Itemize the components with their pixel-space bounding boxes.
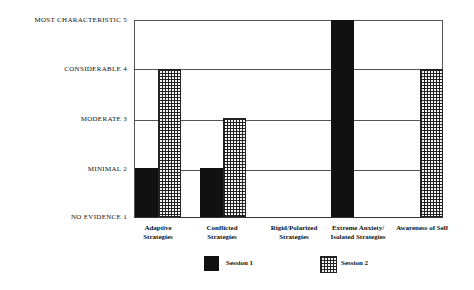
x-tick-label-line: Isolated Strategies: [318, 233, 398, 242]
bar-session2-1: [223, 118, 246, 217]
legend-label-session2: Session 2: [341, 259, 368, 267]
plot-area: [134, 20, 443, 218]
y-tick-label-4: CONSIDERABLE 4: [64, 65, 127, 73]
legend-swatch-session2: [320, 256, 337, 273]
x-tick-label-line: Awareness of Self: [382, 224, 462, 233]
bar-session1-0: [135, 168, 158, 217]
y-tick-label-1: NO EVIDENCE 1: [71, 213, 127, 221]
x-tick-label-4: Awareness of Self: [382, 224, 462, 233]
y-tick-label-2: MINIMAL 2: [88, 165, 127, 173]
legend-swatch-session1: [204, 256, 219, 271]
gridline-4: [135, 69, 442, 70]
y-tick-label-5: MOST CHARACTERISTIC 5: [34, 16, 127, 24]
bar-session1-1: [200, 168, 223, 217]
bar-session1-3: [331, 20, 354, 217]
bar-session2-4: [420, 69, 443, 217]
bar-session2-0: [158, 69, 181, 217]
legend-label-session1: Session 1: [226, 259, 253, 267]
gridline-3: [135, 120, 442, 121]
x-tick-label-line: Conflicted: [182, 224, 262, 233]
y-tick-label-3: MODERATE 3: [81, 115, 127, 123]
x-tick-label-1: ConflictedStrategies: [182, 224, 262, 242]
gridline-2: [135, 170, 442, 171]
x-tick-label-line: Strategies: [182, 233, 262, 242]
